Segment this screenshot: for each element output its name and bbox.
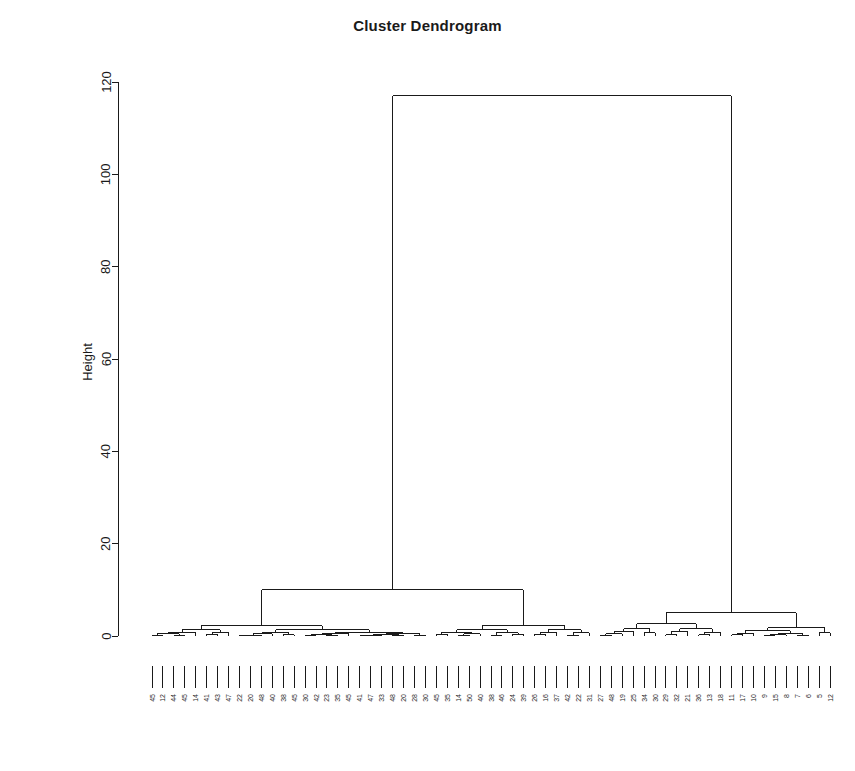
leaf-label: 26 [531, 694, 538, 702]
leaf-label: 14 [455, 694, 462, 702]
leaf-label: 5 [816, 694, 823, 698]
leaf-label: 40 [269, 694, 276, 702]
leaf-label: 12 [159, 694, 166, 702]
leaf-label: 41 [203, 694, 210, 702]
leaf-label: 14 [192, 694, 199, 702]
leaf-label: 22 [236, 694, 243, 702]
leaf-label: 48 [608, 694, 615, 702]
y-axis-tick-label: 100 [99, 163, 114, 185]
leaf-label: 39 [520, 694, 527, 702]
leaf-label: 44 [170, 694, 177, 702]
leaf-label: 6 [805, 694, 812, 698]
dendrogram-plot: Cluster Dendrogram Height 02040608010012… [0, 0, 855, 771]
leaf-label: 43 [214, 694, 221, 702]
leaf-label: 11 [728, 694, 735, 701]
leaf-label: 35 [444, 694, 451, 702]
height-axis: 020406080100120 [99, 71, 119, 639]
leaf-label: 45 [345, 694, 352, 702]
y-axis-tick-label: 40 [99, 444, 114, 458]
leaf-label: 42 [313, 694, 320, 702]
leaf-label: 30 [422, 694, 429, 702]
leaf-label: 37 [553, 694, 560, 702]
y-axis-tick-label: 20 [99, 536, 114, 550]
dendrogram-tree [152, 96, 830, 636]
leaf-label: 20 [400, 694, 407, 702]
y-axis-tick-label: 0 [99, 632, 114, 639]
leaf-label: 41 [356, 694, 363, 702]
leaf-label: 38 [488, 694, 495, 702]
leaf-label: 17 [739, 694, 746, 702]
leaf-label: 28 [411, 694, 418, 702]
leaf-label: 27 [597, 694, 604, 702]
leaf-label: 45 [433, 694, 440, 702]
leaf-label: 45 [149, 694, 156, 702]
leaf-label: 7 [794, 694, 801, 698]
leaf-label: 42 [564, 694, 571, 702]
leaf-label: 30 [302, 694, 309, 702]
leaf-label: 36 [695, 694, 702, 702]
leaf-label: 22 [575, 694, 582, 702]
leaf-label: 10 [750, 694, 757, 702]
leaf-label: 23 [323, 694, 330, 702]
leaf-label: 8 [783, 694, 790, 698]
leaf-label: 21 [684, 694, 691, 702]
leaf-label: 31 [586, 694, 593, 702]
y-axis-tick-label: 80 [99, 259, 114, 273]
leaf-label: 35 [334, 694, 341, 702]
leaf-label: 48 [389, 694, 396, 702]
leaf-label: 29 [662, 694, 669, 702]
leaf-label: 47 [225, 694, 232, 702]
y-axis-tick-label: 60 [99, 352, 114, 366]
leaf-label: 45 [181, 694, 188, 702]
leaf-label: 32 [673, 694, 680, 702]
leaf-label: 47 [367, 694, 374, 702]
leaf-label: 40 [477, 694, 484, 702]
leaf-label: 9 [761, 694, 768, 698]
leaf-label: 24 [509, 694, 516, 702]
leaf-tick-marks [152, 666, 830, 688]
leaf-label: 46 [498, 694, 505, 702]
leaf-label: 30 [652, 694, 659, 702]
leaf-label: 33 [378, 694, 385, 702]
leaf-label: 25 [630, 694, 637, 702]
leaf-label: 50 [466, 694, 473, 702]
leaf-label: 45 [291, 694, 298, 702]
leaf-label: 38 [280, 694, 287, 702]
leaf-label: 19 [619, 694, 626, 702]
leaf-label: 13 [706, 694, 713, 702]
leaf-labels: 4512444514414347222048403845304223354541… [149, 694, 834, 702]
leaf-label: 16 [542, 694, 549, 702]
leaf-label: 34 [641, 694, 648, 702]
leaf-label: 20 [247, 694, 254, 702]
leaf-label: 48 [258, 694, 265, 702]
y-axis-tick-label: 120 [99, 71, 114, 93]
leaf-label: 15 [772, 694, 779, 702]
dendrogram-canvas: 020406080100120 451244451441434722204840… [0, 0, 855, 771]
leaf-label: 18 [717, 694, 724, 702]
leaf-label: 12 [827, 694, 834, 702]
